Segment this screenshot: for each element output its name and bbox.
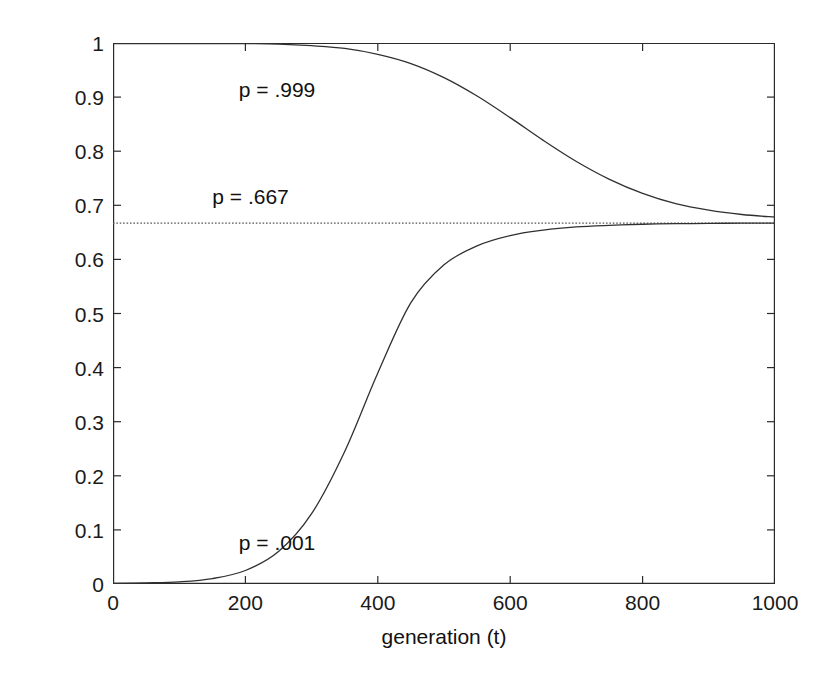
chart-plot-svg bbox=[113, 43, 775, 584]
y-tick-label: 0 bbox=[92, 574, 104, 595]
figure-canvas: 00.10.20.30.40.50.60.70.80.91 relative f… bbox=[0, 0, 836, 683]
plot-area: p = .999p = .667p = .001 bbox=[113, 43, 775, 584]
y-tick-label: 0.5 bbox=[75, 303, 104, 324]
x-tick-label: 1000 bbox=[752, 592, 799, 613]
y-tick-label: 0.2 bbox=[75, 465, 104, 486]
annotation-label: p = .667 bbox=[212, 186, 288, 207]
annotation-label: p = .001 bbox=[239, 532, 315, 553]
x-tick-label: 400 bbox=[360, 592, 395, 613]
x-axis-tick-labels: 02004006008001000 bbox=[113, 592, 775, 622]
axis-tick-marks bbox=[113, 43, 775, 584]
x-tick-label: 200 bbox=[228, 592, 263, 613]
y-tick-label: 0.8 bbox=[75, 141, 104, 162]
curve-p-001 bbox=[113, 223, 775, 583]
annotation-label: p = .999 bbox=[239, 79, 315, 100]
x-tick-label: 800 bbox=[625, 592, 660, 613]
y-tick-label: 1 bbox=[92, 33, 104, 54]
x-tick-label: 0 bbox=[107, 592, 119, 613]
x-axis-title: generation (t) bbox=[113, 625, 775, 649]
y-tick-label: 0.4 bbox=[75, 357, 104, 378]
x-tick-label: 600 bbox=[493, 592, 528, 613]
y-tick-label: 0.9 bbox=[75, 87, 104, 108]
axis-spines bbox=[113, 43, 775, 584]
y-tick-label: 0.1 bbox=[75, 519, 104, 540]
y-tick-label: 0.6 bbox=[75, 249, 104, 270]
y-axis-tick-labels: 00.10.20.30.40.50.60.70.80.91 bbox=[42, 43, 104, 584]
y-tick-label: 0.7 bbox=[75, 195, 104, 216]
y-tick-label: 0.3 bbox=[75, 411, 104, 432]
data-curves bbox=[113, 44, 775, 584]
